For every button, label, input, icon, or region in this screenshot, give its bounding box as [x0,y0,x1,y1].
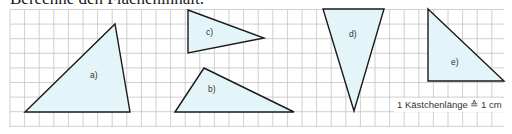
triangle-e [428,9,504,81]
triangle-label-a: a) [90,70,98,80]
grid-figure: a)b)c)d)e) [0,0,512,134]
triangle-label-b: b) [208,84,216,94]
triangle-label-c: c) [206,27,213,37]
scale-note: 1 Kästchenlänge ≙ 1 cm [394,98,505,112]
triangle-b [175,68,294,112]
triangle-label-e: e) [451,57,459,67]
triangle-label-d: d) [349,29,357,39]
triangle-c [188,10,264,53]
